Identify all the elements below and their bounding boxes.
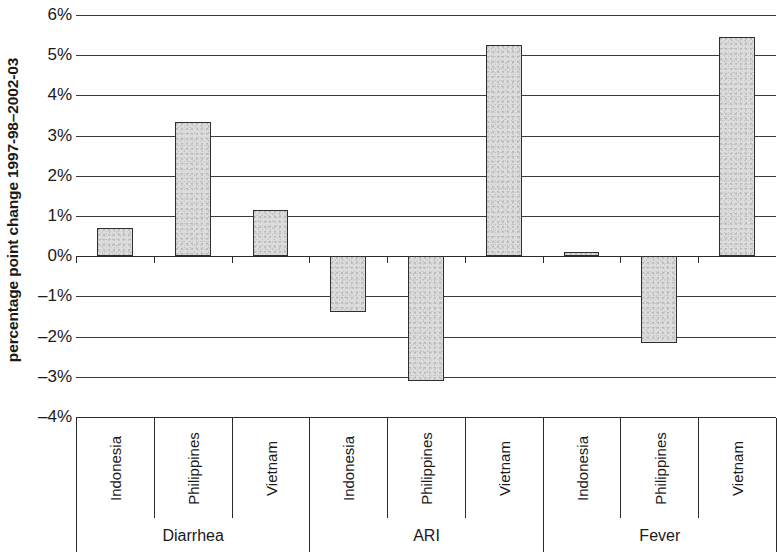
bar — [97, 228, 133, 256]
y-tick-label: –2% — [12, 327, 72, 347]
y-tick-label: 5% — [12, 45, 72, 65]
y-tick-label: 4% — [12, 85, 72, 105]
y-tick-label: 2% — [12, 166, 72, 186]
category-cells: IndonesiaPhilippinesVietnam — [77, 418, 309, 518]
category-group-diarrhea: IndonesiaPhilippinesVietnamDiarrhea — [77, 418, 310, 552]
category-label: Vietnam — [262, 441, 279, 496]
gridline-4 — [76, 95, 776, 96]
category-group-fever: IndonesiaPhilippinesVietnamFever — [544, 418, 777, 552]
category-label: Indonesia — [340, 435, 357, 500]
category-label: Vietnam — [496, 441, 513, 496]
category-cell: Indonesia — [77, 418, 154, 518]
y-tick-label: 6% — [12, 5, 72, 25]
category-cell: Philippines — [620, 418, 698, 518]
category-label: Indonesia — [107, 435, 124, 500]
bar — [486, 45, 522, 256]
category-label: Indonesia — [574, 435, 591, 500]
category-group-ari: IndonesiaPhilippinesVietnamARI — [310, 418, 543, 552]
y-tick-label: 3% — [12, 126, 72, 146]
y-tick-label: –1% — [12, 286, 72, 306]
category-cell: Vietnam — [232, 418, 310, 518]
axis-tick — [76, 256, 77, 263]
category-label: Philippines — [418, 432, 435, 505]
group-label: Fever — [544, 518, 776, 552]
bar — [175, 122, 211, 257]
y-tick-label: 1% — [12, 206, 72, 226]
axis-tick — [232, 256, 233, 263]
category-label: Philippines — [651, 432, 668, 505]
category-cell: Philippines — [154, 418, 232, 518]
gridline-5 — [76, 55, 776, 56]
y-tick-label: 0% — [12, 246, 72, 266]
group-label: Diarrhea — [77, 518, 309, 552]
plot-area: 6%5%4%3%2%1%0%–1%–2%–3%–4% — [76, 15, 776, 417]
group-label: ARI — [310, 518, 542, 552]
category-cell: Indonesia — [310, 418, 387, 518]
axis-tick — [309, 256, 310, 263]
gridline-6 — [76, 15, 776, 16]
axis-tick — [543, 256, 544, 263]
y-tick-label: –4% — [12, 407, 72, 427]
y-tick-label: –3% — [12, 367, 72, 387]
category-cells: IndonesiaPhilippinesVietnam — [310, 418, 542, 518]
axis-tick — [465, 256, 466, 263]
bar — [330, 256, 366, 312]
category-label: Vietnam — [729, 441, 746, 496]
bar — [719, 37, 755, 256]
category-cell: Philippines — [387, 418, 465, 518]
category-cells: IndonesiaPhilippinesVietnam — [544, 418, 776, 518]
category-cell: Vietnam — [465, 418, 543, 518]
bar — [408, 256, 444, 381]
category-label: Philippines — [185, 432, 202, 505]
category-cell: Vietnam — [698, 418, 776, 518]
category-axis-table: IndonesiaPhilippinesVietnamDiarrheaIndon… — [76, 417, 776, 552]
bar — [564, 252, 600, 256]
axis-tick — [698, 256, 699, 263]
axis-tick — [620, 256, 621, 263]
bar — [641, 256, 677, 342]
axis-tick — [387, 256, 388, 263]
axis-tick — [154, 256, 155, 263]
bar — [253, 210, 289, 256]
category-cell: Indonesia — [544, 418, 621, 518]
